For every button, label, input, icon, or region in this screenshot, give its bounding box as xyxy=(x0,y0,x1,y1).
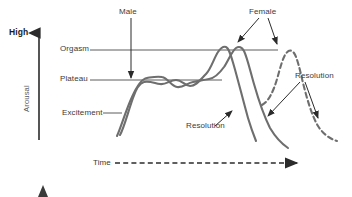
annotation-label-resolution-left: Resolution xyxy=(186,122,225,130)
annotation-label-female: Female xyxy=(249,8,276,16)
axis-label-time: Time xyxy=(93,159,111,167)
phase-label-excitement: Excitement xyxy=(62,109,103,117)
diagram-canvas: High Arousal Orgasm Plateau Excitement M… xyxy=(0,0,352,197)
bottom-cropped-arrow-icon xyxy=(38,185,48,197)
annotation-label-resolution-right: Resolution xyxy=(295,72,334,80)
phase-label-plateau: Plateau xyxy=(60,75,88,83)
annotation-arrows xyxy=(131,18,318,126)
phase-reference-lines xyxy=(90,50,278,113)
sexual-response-cycle-diagram xyxy=(0,0,352,197)
female-first-response-curve xyxy=(117,47,288,148)
female-annotation-arrow-2 xyxy=(268,18,277,44)
axis-label-high: High xyxy=(9,28,28,37)
annotation-label-male: Male xyxy=(119,8,137,16)
phase-label-orgasm: Orgasm xyxy=(60,45,89,53)
female-annotation-arrow-1 xyxy=(238,18,259,42)
female-second-response-curve xyxy=(262,51,337,141)
axis-label-arousal: Arousal xyxy=(22,85,31,112)
resolution-right-annotation-arrow-1 xyxy=(268,82,300,116)
response-curves xyxy=(117,47,337,148)
